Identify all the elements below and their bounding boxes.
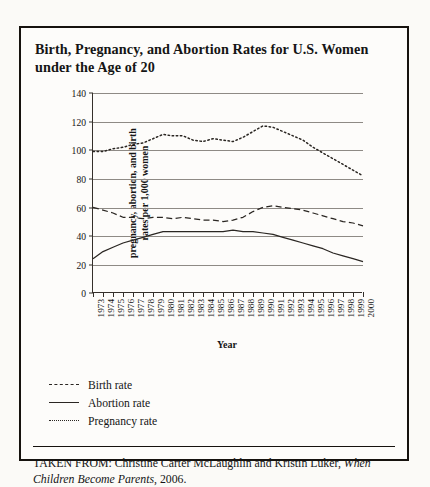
x-axis-tick-label: 1997 bbox=[336, 299, 346, 317]
x-axis-tick-label: 1978 bbox=[146, 299, 156, 317]
x-axis-tick-label: 1984 bbox=[206, 299, 216, 317]
legend-label: Birth rate bbox=[88, 379, 132, 392]
x-axis-tick-label: 1981 bbox=[176, 299, 186, 317]
x-axis-tick bbox=[363, 292, 364, 297]
x-axis-title: Year bbox=[92, 339, 362, 350]
x-axis-tick-label: 1991 bbox=[276, 299, 286, 317]
chart-legend: Birth rate Abortion rate Pregnancy rate bbox=[49, 376, 407, 430]
series-line-abortion-rate bbox=[93, 230, 363, 261]
legend-item-birth-rate: Birth rate bbox=[49, 376, 407, 394]
figure-card: Birth, Pregnancy, and Abortion Rates for… bbox=[19, 26, 409, 461]
series-line-pregnancy-rate bbox=[93, 126, 363, 176]
legend-item-abortion-rate: Abortion rate bbox=[49, 394, 407, 412]
source-prefix: TAKEN FROM: Christine Carter McLaughlin … bbox=[33, 456, 344, 470]
x-axis-tick-label: 1976 bbox=[126, 299, 136, 317]
chart-figure: pregnancy, abortion, and birthrates per … bbox=[21, 86, 409, 354]
x-axis-tick-label: 1986 bbox=[226, 299, 236, 317]
x-axis-tick-label: 1974 bbox=[106, 299, 116, 317]
x-axis-tick-label: 1987 bbox=[236, 299, 246, 317]
x-axis-tick-label: 1980 bbox=[166, 299, 176, 317]
x-axis-tick-label: 1985 bbox=[216, 299, 226, 317]
x-axis-tick-label: 1994 bbox=[306, 299, 316, 317]
source-section: TAKEN FROM: Christine Carter McLaughlin … bbox=[33, 446, 395, 487]
x-axis-tick-label: 1983 bbox=[196, 299, 206, 317]
page-title: Birth, Pregnancy, and Abortion Rates for… bbox=[35, 40, 393, 76]
legend-label: Pregnancy rate bbox=[88, 415, 157, 428]
source-citation: TAKEN FROM: Christine Carter McLaughlin … bbox=[33, 456, 395, 487]
plot-area: 0204060801001201401973197419751976197719… bbox=[92, 93, 362, 293]
x-axis-tick-label: 2000 bbox=[366, 299, 376, 317]
x-axis-tick-label: 1990 bbox=[266, 299, 276, 317]
x-axis-tick-label: 1995 bbox=[316, 299, 326, 317]
legend-item-pregnancy-rate: Pregnancy rate bbox=[49, 412, 407, 430]
x-axis-tick-label: 1998 bbox=[346, 299, 356, 317]
x-axis-tick-label: 1999 bbox=[356, 299, 366, 317]
x-axis-tick-label: 1979 bbox=[156, 299, 166, 317]
x-axis-tick-label: 1989 bbox=[256, 299, 266, 317]
series-line-birth-rate bbox=[93, 206, 363, 226]
x-axis-tick-label: 1993 bbox=[296, 299, 306, 317]
x-axis-tick-label: 1988 bbox=[246, 299, 256, 317]
x-axis-tick-label: 1996 bbox=[326, 299, 336, 317]
x-axis-tick-label: 1977 bbox=[136, 299, 146, 317]
x-axis-tick-label: 1975 bbox=[116, 299, 126, 317]
legend-label: Abortion rate bbox=[88, 397, 150, 410]
x-axis-tick-label: 1973 bbox=[96, 299, 106, 317]
series-layer bbox=[93, 93, 363, 293]
x-axis-tick-label: 1992 bbox=[286, 299, 296, 317]
x-axis-tick-label: 1982 bbox=[186, 299, 196, 317]
source-suffix: , 2006. bbox=[154, 472, 186, 486]
